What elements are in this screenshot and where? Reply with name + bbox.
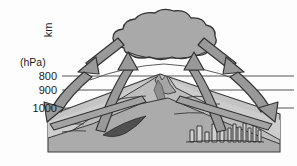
axis-label-km: km [42,23,54,38]
pressure-label-1000: 1000 [33,102,57,114]
mountain-circulation-figure: km (hPa) 800 900 1000 [0,0,297,166]
axis-label-hpa: (hPa) [20,56,46,68]
pressure-label-800: 800 [39,70,57,82]
pressure-label-900: 900 [39,84,57,96]
